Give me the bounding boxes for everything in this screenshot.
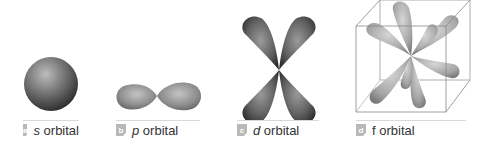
badge-d: d bbox=[356, 124, 366, 136]
f-orbital-cube-icon bbox=[350, 0, 486, 120]
s-orbital-sphere-icon bbox=[0, 0, 110, 120]
panel-d-orbital: c d orbital bbox=[230, 0, 350, 164]
d-orbital-cloverleaf-icon bbox=[230, 0, 350, 120]
badge-c: c bbox=[237, 124, 247, 136]
badge-b: b bbox=[116, 124, 126, 136]
badge-a: a bbox=[23, 124, 27, 136]
caption-label: p orbital bbox=[132, 123, 178, 138]
caption-p-orbital: b p orbital bbox=[116, 120, 200, 139]
caption-label: f orbital bbox=[372, 123, 415, 138]
caption-label: s orbital bbox=[33, 123, 79, 138]
caption-s-orbital: a s orbital bbox=[23, 120, 79, 139]
caption-f-orbital: d f orbital bbox=[356, 120, 466, 139]
p-orbital-dumbbell-icon bbox=[110, 0, 230, 120]
panel-p-orbital: b p orbital bbox=[110, 0, 230, 164]
caption-d-orbital: c d orbital bbox=[237, 120, 319, 139]
panel-s-orbital: a s orbital bbox=[0, 0, 110, 164]
panel-f-orbital: d f orbital bbox=[350, 0, 486, 164]
caption-label: d orbital bbox=[253, 123, 299, 138]
